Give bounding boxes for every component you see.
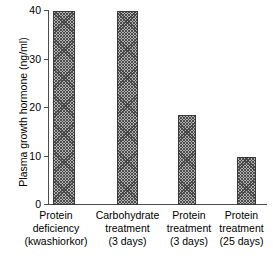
- y-axis-title: Plasma growth hormone (ng/ml): [17, 12, 29, 212]
- bar-protein-deficiency: [53, 11, 75, 205]
- x-label-line-2: deficiency: [16, 222, 96, 235]
- x-label-protein-treatment-25d: Protein treatment (25 days): [210, 209, 273, 249]
- bar-protein-treatment-3d: [178, 115, 196, 205]
- y-tick-10: 10: [44, 156, 48, 157]
- x-label-line-3: (25 days): [210, 235, 273, 248]
- x-axis-line: [48, 204, 267, 205]
- x-label-line-1: Protein: [210, 209, 273, 222]
- y-tick-label-0: 0: [35, 199, 41, 210]
- y-tick-20: 20: [44, 107, 48, 108]
- plot-area: 0 10 20 30 40: [48, 6, 267, 205]
- plasma-growth-hormone-bar-chart: Plasma growth hormone (ng/ml) 0 10 20 30…: [0, 0, 273, 261]
- x-label-line-2: treatment: [210, 222, 273, 235]
- y-tick-label-40: 40: [29, 5, 41, 16]
- y-tick-label-30: 30: [29, 53, 41, 64]
- y-tick-30: 30: [44, 59, 48, 60]
- y-axis-line: [48, 10, 49, 205]
- bar-carbohydrate-treatment: [117, 11, 138, 205]
- y-tick-label-10: 10: [29, 150, 41, 161]
- x-label-protein-deficiency: Protein deficiency (kwashiorkor): [16, 209, 96, 249]
- x-label-line-3: (kwashiorkor): [16, 235, 96, 248]
- y-tick-label-20: 20: [29, 102, 41, 113]
- y-tick-40: 40: [44, 10, 48, 11]
- y-tick-0: 0: [44, 204, 48, 205]
- x-label-line-1: Protein: [16, 209, 96, 222]
- bar-protein-treatment-25d: [237, 157, 256, 206]
